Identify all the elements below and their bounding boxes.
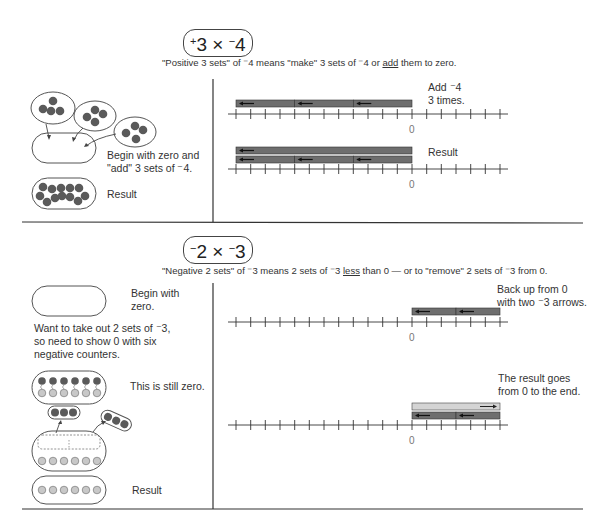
s2-removed-group-2: [99, 408, 134, 433]
s1-zero-label-2: 0: [409, 179, 415, 190]
times-sign: ×: [207, 34, 229, 55]
s2-step2-line2: from 0 to the end.: [498, 385, 580, 398]
s1-counter-group-2: [74, 101, 116, 131]
s2-explanation: Want to take out 2 sets of ⁻3, so need t…: [34, 322, 170, 361]
s2-step1-line2: with two ⁻3 arrows.: [497, 296, 587, 309]
s1-number-line-1: [228, 100, 508, 119]
s2-removed-group-1: [48, 406, 80, 419]
neg4-arrow: [236, 100, 295, 107]
s1-step1-line2: 3 times.: [428, 94, 465, 107]
s1-begin-line1: Begin with zero and: [107, 149, 199, 162]
s2-after-removal: [32, 431, 106, 471]
times-sign: ×: [207, 241, 229, 262]
s2-zero-label-2: 0: [409, 435, 415, 446]
s2-result-label: Result: [132, 484, 162, 497]
s2-still-zero-label: This is still zero.: [130, 380, 205, 393]
s1-zero-container: [32, 133, 96, 163]
s2-number-line-2: [228, 403, 508, 430]
s1-begin-label: Begin with zero and "add" 3 sets of ⁻4.: [107, 149, 199, 175]
section-separator: [22, 222, 583, 223]
s2-subtitle-post: than 0 — or to "remove" 2 sets of ⁻3 fro…: [360, 265, 548, 276]
s2-begin-line2: zero.: [131, 300, 179, 313]
s1-step2-label: Result: [428, 146, 458, 159]
s2-explain-line1: Want to take out 2 sets of ⁻3,: [34, 322, 170, 335]
num-2: 2: [196, 241, 207, 262]
s2-subtitle-pre: "Negative 2 sets" of ⁻3 means 2 sets of …: [162, 265, 343, 276]
s2-step2-label: The result goes from 0 to the end.: [498, 372, 580, 398]
s2-explain-line2: so need to show 0 with six: [34, 335, 170, 348]
s2-step1-label: Back up from 0 with two ⁻3 arrows.: [497, 283, 587, 309]
s2-step2-line1: The result goes: [498, 372, 580, 385]
result-neg12-arrow: [236, 147, 412, 154]
num-3: 3: [235, 241, 246, 262]
s1-result-label: Result: [107, 188, 137, 201]
s2-zero-pairs: [32, 371, 106, 404]
s2-result-counters: [32, 476, 106, 504]
s1-expression-title: +3 × −4: [183, 29, 253, 57]
s2-expression-title: −2 × −3: [183, 236, 253, 264]
s1-subtitle-pre: "Positive 3 sets" of ⁻4 means "make" 3 s…: [162, 57, 382, 68]
s1-subtitle: "Positive 3 sets" of ⁻4 means "make" 3 s…: [162, 57, 456, 68]
s1-counter-group-1: [31, 92, 75, 124]
s1-step1-line1: Add ⁻4: [428, 81, 465, 94]
s2-begin-label: Begin with zero.: [131, 287, 179, 313]
num-4: 4: [235, 34, 246, 55]
s1-step1-label: Add ⁻4 3 times.: [428, 81, 465, 107]
diagram-graphics: [0, 0, 599, 511]
s2-zero-container: [32, 286, 106, 316]
s2-begin-line1: Begin with: [131, 287, 179, 300]
s2-explain-line3: negative counters.: [34, 348, 170, 361]
s1-counter-group-3: [114, 117, 156, 147]
neg4-arrow: [353, 100, 412, 107]
s2-zero-label-1: 0: [409, 332, 415, 343]
num-3: 3: [196, 34, 207, 55]
s1-subtitle-post: them to zero.: [398, 57, 456, 68]
s1-zero-label-1: 0: [409, 124, 415, 135]
s1-subtitle-emphasis: add: [382, 57, 398, 68]
s1-number-line-2: [228, 147, 508, 174]
s1-result-counters: [32, 178, 96, 209]
neg4-arrow: [295, 100, 354, 107]
s1-begin-line2: "add" 3 sets of ⁻4.: [107, 162, 199, 175]
s2-number-line-1: [228, 308, 508, 327]
s2-subtitle: "Negative 2 sets" of ⁻3 means 2 sets of …: [162, 265, 547, 276]
s2-step1-line1: Back up from 0: [497, 283, 587, 296]
s2-subtitle-emphasis: less: [343, 265, 360, 276]
